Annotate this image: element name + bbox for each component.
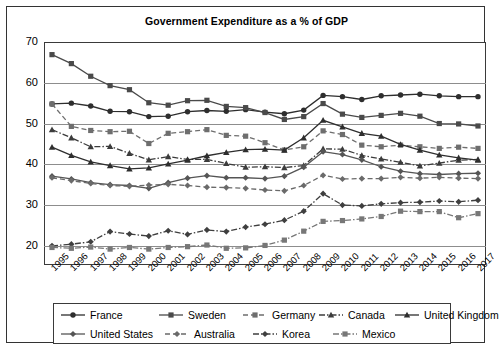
data-point-marker (146, 100, 151, 105)
data-point-marker (243, 105, 248, 110)
data-point-marker (224, 246, 229, 251)
data-point-marker (475, 211, 480, 216)
y-axis-tick-label: 30 (26, 199, 38, 210)
legend-row: United StatesAustraliaKoreaMexico (54, 324, 452, 344)
data-point-marker (126, 183, 132, 189)
data-point-marker (70, 331, 76, 337)
chart-page: Government Expenditure as a % of GDP 203… (0, 0, 499, 359)
legend-item-sweden[interactable]: Sweden (158, 305, 226, 325)
data-point-marker (88, 144, 94, 150)
data-point-marker (68, 135, 74, 141)
legend-item-mexico[interactable]: Mexico (332, 324, 395, 344)
legend-swatch-icon (394, 308, 420, 322)
data-point-marker (437, 209, 442, 214)
legend-item-france[interactable]: France (60, 305, 123, 325)
data-point-marker (223, 184, 229, 190)
data-point-marker (185, 244, 190, 249)
data-point-marker (339, 151, 345, 157)
data-point-marker (204, 108, 209, 113)
data-point-marker (282, 238, 287, 243)
data-point-marker (49, 52, 54, 57)
legend-swatch-icon (332, 327, 358, 341)
data-point-marker (184, 231, 190, 237)
data-point-marker (88, 180, 94, 186)
data-point-marker (436, 198, 442, 204)
data-point-marker (146, 233, 152, 239)
data-point-marker (378, 175, 384, 181)
data-point-marker (88, 103, 93, 108)
legend-item-united-states[interactable]: United States (60, 324, 153, 344)
data-point-marker (397, 174, 403, 180)
data-point-marker (281, 188, 287, 194)
data-point-marker (49, 101, 54, 106)
data-point-marker (340, 112, 345, 117)
series-united-states (49, 149, 481, 192)
data-point-marker (475, 197, 481, 203)
data-point-marker (262, 243, 267, 248)
legend-item-united-kingdom[interactable]: United Kingdom (394, 305, 499, 325)
data-point-marker (262, 221, 268, 227)
data-point-marker (146, 247, 151, 252)
data-point-marker (69, 124, 74, 129)
legend-item-canada[interactable]: Canada (318, 305, 385, 325)
data-point-marker (204, 173, 210, 179)
chart-frame: Government Expenditure as a % of GDP 203… (6, 6, 485, 343)
data-point-marker (359, 143, 364, 148)
data-point-marker (243, 245, 248, 250)
data-point-marker (262, 110, 267, 115)
data-point-marker (243, 185, 249, 191)
data-point-marker (320, 117, 326, 123)
data-point-marker (262, 187, 268, 193)
y-axis-tick-label: 70 (26, 36, 38, 47)
legend-item-korea[interactable]: Korea (252, 324, 310, 344)
data-point-marker (301, 208, 307, 214)
data-point-marker (282, 111, 287, 116)
data-point-marker (378, 164, 384, 170)
legend-item-germany[interactable]: Germany (242, 305, 315, 325)
series-line (52, 194, 478, 246)
data-point-marker (127, 109, 132, 114)
data-point-marker (398, 92, 403, 97)
series-mexico (49, 209, 480, 252)
data-point-marker (185, 98, 190, 103)
data-point-marker (166, 103, 171, 108)
legend-label: United Kingdom (424, 309, 499, 321)
data-point-marker (340, 218, 345, 223)
series-sweden (49, 52, 480, 129)
legend-label: Mexico (362, 328, 395, 340)
data-point-marker (475, 146, 480, 151)
data-point-marker (359, 175, 365, 181)
data-point-marker (69, 100, 74, 105)
data-point-marker (320, 172, 326, 178)
data-point-marker (243, 175, 249, 181)
data-point-marker (456, 121, 461, 126)
data-point-marker (320, 219, 325, 224)
data-point-marker (165, 228, 171, 234)
data-point-marker (379, 113, 384, 118)
data-point-marker (475, 175, 481, 181)
data-point-marker (456, 215, 461, 220)
data-point-marker (224, 104, 229, 109)
legend-swatch-icon (252, 327, 278, 341)
data-point-marker (107, 247, 112, 252)
data-point-marker (70, 312, 75, 317)
data-point-marker (320, 191, 326, 197)
series-lines (44, 42, 486, 265)
data-point-marker (127, 129, 132, 134)
legend-item-australia[interactable]: Australia (164, 324, 235, 344)
data-point-marker (456, 94, 461, 99)
legend-row: FranceSwedenGermanyCanadaUnited Kingdom (54, 305, 452, 325)
data-point-marker (185, 109, 190, 114)
data-point-marker (204, 98, 209, 103)
data-point-marker (185, 129, 190, 134)
data-point-marker (320, 93, 325, 98)
data-point-marker (49, 245, 54, 250)
data-point-marker (165, 113, 170, 118)
legend-label: Sweden (188, 309, 226, 321)
data-point-marker (475, 123, 480, 128)
legend-label: Germany (272, 309, 315, 321)
data-point-marker (204, 227, 210, 233)
data-point-marker (88, 74, 93, 79)
data-point-marker (204, 242, 209, 247)
data-point-marker (320, 101, 325, 106)
